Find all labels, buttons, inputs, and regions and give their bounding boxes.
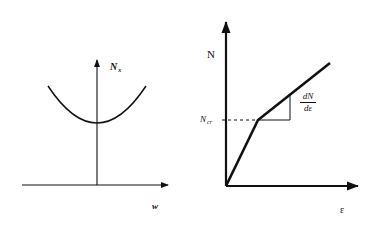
left-y-axis-label-main: N (110, 61, 117, 72)
critical-load-label: Ncr (200, 115, 212, 124)
left-plot (22, 60, 168, 185)
slope-label: dN dε (300, 92, 316, 113)
left-y-axis-label-sub: x (118, 67, 121, 73)
slope-denominator: dε (304, 104, 312, 113)
diagram-canvas (0, 0, 385, 226)
slope-numerator: dN (303, 92, 314, 101)
right-plot (222, 22, 358, 186)
right-x-axis-label: ε (340, 205, 344, 215)
left-y-axis-label: Nx (110, 62, 121, 72)
critical-load-label-sub: cr (207, 119, 212, 125)
right-y-axis-label: N (207, 49, 215, 60)
left-x-axis-label: w (152, 202, 158, 211)
critical-load-label-main: N (200, 114, 206, 124)
bilinear-load-strain-curve (226, 63, 330, 186)
